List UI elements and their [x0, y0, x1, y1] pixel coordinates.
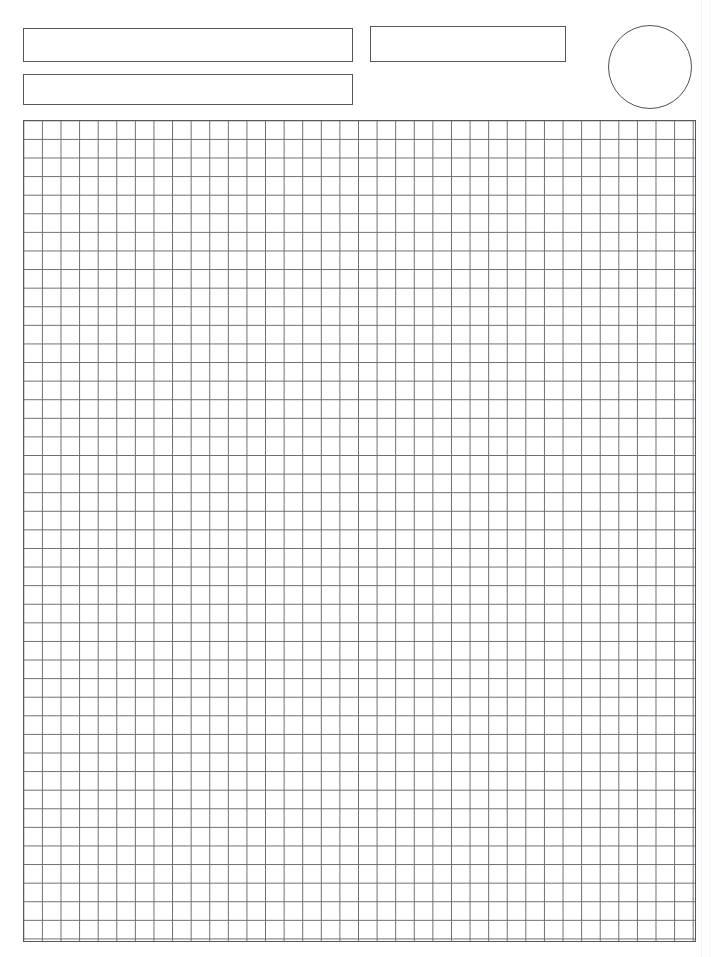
secondary-field[interactable]	[370, 26, 566, 62]
subtitle-field[interactable]	[23, 74, 353, 105]
title-field[interactable]	[23, 28, 353, 62]
scan-edge-line	[701, 0, 702, 957]
page-canvas	[0, 0, 715, 957]
title-field-value	[24, 29, 352, 37]
stamp-circle-value	[609, 26, 691, 108]
grid-lines	[24, 121, 695, 941]
subtitle-field-value	[24, 75, 352, 83]
scan-edge-line-outer	[709, 0, 710, 957]
stamp-circle[interactable]	[608, 25, 692, 109]
secondary-field-value	[371, 27, 565, 35]
graph-paper-grid[interactable]	[23, 120, 696, 942]
